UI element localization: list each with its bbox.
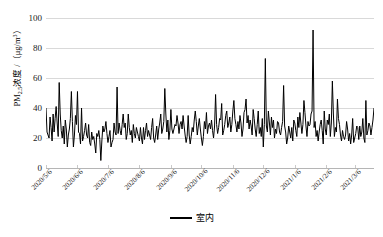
x-tick-label: 2020/7/6 xyxy=(90,168,115,193)
x-tick-label: 2020/11/6 xyxy=(215,168,240,193)
y-tick-label: 20 xyxy=(16,134,42,143)
legend-line-swatch xyxy=(170,217,192,219)
x-tick-label: 2020/6/6 xyxy=(60,168,85,193)
series-line-indoor xyxy=(46,30,374,161)
x-tick-label: 2021/2/6 xyxy=(308,168,333,193)
pm25-line-chart: PM2.5浓度 /（μg/m3） 020406080100 2020/5/620… xyxy=(0,0,383,237)
series-indoor xyxy=(46,18,374,168)
x-axis-tick-labels: 2020/5/62020/6/62020/7/62020/8/62020/9/6… xyxy=(0,168,383,213)
legend-label: 室内 xyxy=(196,213,214,223)
y-tick-label: 40 xyxy=(16,104,42,113)
plot-area xyxy=(46,18,374,168)
x-tick-label: 2021/1/6 xyxy=(277,168,302,193)
y-tick-label: 80 xyxy=(16,44,42,53)
x-tick-label: 2020/8/6 xyxy=(122,168,147,193)
x-tick-label: 2020/9/6 xyxy=(153,168,178,193)
x-tick-label: 2021/3/6 xyxy=(337,168,362,193)
y-tick-label: 100 xyxy=(16,14,42,23)
x-tick-label: 2020/10/6 xyxy=(184,168,209,193)
x-tick-label: 2020/5/6 xyxy=(28,168,53,193)
legend: 室内 xyxy=(0,213,383,223)
x-tick-label: 2020/12/6 xyxy=(246,168,271,193)
y-tick-label: 60 xyxy=(16,74,42,83)
